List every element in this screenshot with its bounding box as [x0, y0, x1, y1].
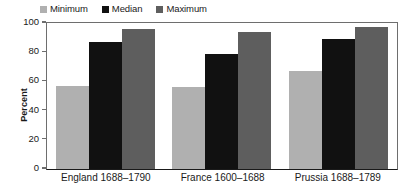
legend-swatch-icon	[102, 6, 109, 13]
legend-entry-minimum[interactable]: Minimum	[40, 4, 88, 14]
legend-entry-maximum[interactable]: Maximum	[156, 4, 206, 14]
bar-group	[56, 23, 155, 169]
x-axis-category-label: France 1600–1688	[181, 172, 265, 183]
bar-maximum[interactable]	[355, 27, 388, 169]
bar-median[interactable]	[89, 42, 122, 169]
legend-label: Maximum	[166, 4, 206, 14]
legend-label: Median	[112, 4, 143, 14]
x-axis: England 1688–1790France 1600–1688Prussia…	[46, 172, 396, 183]
y-axis-tick-label: 0	[34, 162, 39, 173]
y-axis-tick-label: 100	[23, 16, 39, 27]
y-axis: Percent 100806040200	[0, 22, 46, 168]
x-axis-category-label: England 1688–1790	[61, 172, 151, 183]
plot-area	[46, 22, 398, 170]
chart-legend: MinimumMedianMaximum	[40, 2, 207, 16]
bar-minimum[interactable]	[289, 71, 322, 169]
legend-entry-median[interactable]: Median	[102, 4, 143, 14]
bar-group	[172, 23, 271, 169]
legend-swatch-icon	[156, 6, 163, 13]
bar-minimum[interactable]	[172, 87, 205, 169]
y-axis-tick-label: 40	[28, 104, 39, 115]
bar-chart-figure: MinimumMedianMaximum Percent 10080604020…	[0, 0, 404, 195]
y-axis-tick-label: 60	[28, 74, 39, 85]
bar-group	[289, 23, 388, 169]
bars-container	[47, 23, 397, 169]
bar-minimum[interactable]	[56, 86, 89, 169]
legend-label: Minimum	[50, 4, 88, 14]
bar-maximum[interactable]	[238, 32, 271, 169]
bar-median[interactable]	[322, 39, 355, 169]
x-axis-category-label: Prussia 1688–1789	[295, 172, 381, 183]
y-axis-tick-label: 80	[28, 45, 39, 56]
legend-swatch-icon	[40, 6, 47, 13]
bar-maximum[interactable]	[122, 29, 155, 169]
bar-median[interactable]	[205, 54, 238, 169]
y-axis-tick-label: 20	[28, 133, 39, 144]
